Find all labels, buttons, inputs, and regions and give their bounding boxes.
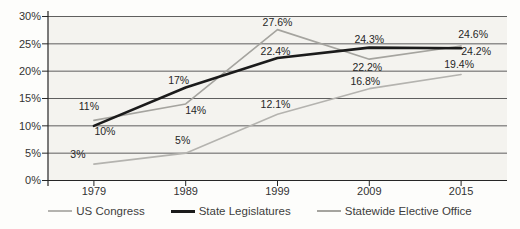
svg-text:1979: 1979 [82, 185, 106, 197]
legend-item-us-congress: US Congress [48, 205, 144, 217]
legend-label-us-congress: US Congress [76, 205, 144, 217]
svg-text:30%: 30% [19, 10, 41, 22]
us-congress-line-swatch [48, 210, 72, 212]
legend-item-statewide-elective-office: Statewide Elective Office [317, 205, 472, 217]
svg-text:11%: 11% [79, 100, 99, 112]
statewide-elective-office-line-swatch [317, 210, 341, 212]
svg-text:25%: 25% [19, 38, 41, 50]
svg-text:16.8%: 16.8% [350, 75, 380, 87]
svg-text:5%: 5% [25, 147, 41, 159]
svg-text:27.6%: 27.6% [263, 16, 293, 28]
line-chart: 0%5%10%15%20%25%30%197919891999200920153… [0, 0, 520, 199]
svg-text:22.2%: 22.2% [352, 61, 382, 73]
svg-text:1999: 1999 [265, 185, 289, 197]
svg-text:3%: 3% [70, 148, 85, 160]
svg-text:0%: 0% [25, 174, 41, 186]
svg-text:2015: 2015 [449, 185, 473, 197]
legend-label-statewide-elective-office: Statewide Elective Office [345, 205, 472, 217]
legend-item-state-legislatures: State Legislatures [171, 205, 291, 217]
svg-text:20%: 20% [19, 65, 41, 77]
svg-text:14%: 14% [185, 104, 206, 116]
svg-text:12.1%: 12.1% [261, 98, 291, 110]
state-legislatures-line-swatch [171, 210, 195, 213]
legend-label-state-legislatures: State Legislatures [199, 205, 291, 217]
line-chart-figure: 0%5%10%15%20%25%30%197919891999200920153… [0, 0, 520, 229]
svg-text:24.2%: 24.2% [461, 45, 491, 57]
svg-text:5%: 5% [175, 134, 190, 146]
svg-text:10%: 10% [94, 125, 115, 137]
chart-legend: US Congress State Legislatures Statewide… [0, 201, 520, 221]
svg-text:1989: 1989 [173, 185, 197, 197]
svg-text:19.4%: 19.4% [444, 58, 474, 70]
svg-text:2009: 2009 [357, 185, 381, 197]
svg-text:17%: 17% [168, 74, 189, 86]
svg-text:10%: 10% [19, 120, 41, 132]
svg-text:24.3%: 24.3% [354, 33, 384, 45]
svg-text:15%: 15% [19, 92, 41, 104]
svg-text:24.6%: 24.6% [458, 28, 488, 40]
svg-text:22.4%: 22.4% [261, 45, 291, 57]
